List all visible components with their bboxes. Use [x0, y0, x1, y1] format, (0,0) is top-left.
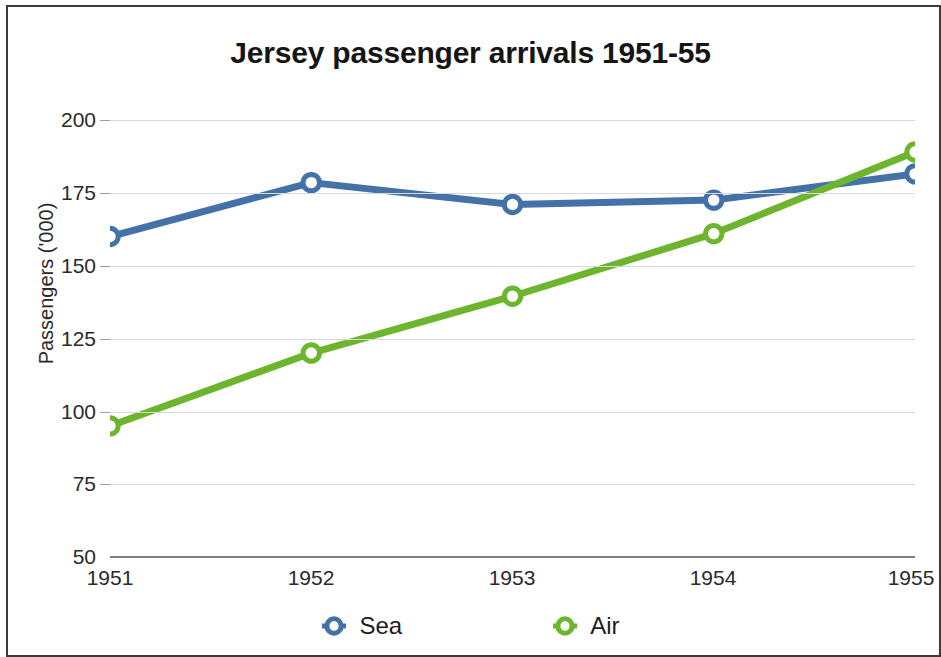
gridline-100 — [110, 412, 915, 413]
y-tick-label-200: 200 — [38, 108, 96, 132]
data-point-air-1952[interactable] — [303, 345, 319, 361]
plot-area — [110, 120, 915, 557]
legend-label-air: Air — [590, 612, 619, 640]
legend-item-air[interactable]: Air — [552, 612, 619, 640]
y-tick-label-175: 175 — [38, 181, 96, 205]
x-axis-line — [110, 556, 915, 558]
legend-marker-circle-icon — [552, 613, 578, 639]
legend-item-sea[interactable]: Sea — [321, 612, 402, 640]
x-tick-label-1951: 1951 — [50, 566, 170, 590]
y-tick-label-75: 75 — [38, 472, 96, 496]
gridline-175 — [110, 193, 915, 194]
data-point-sea-1954[interactable] — [706, 192, 722, 208]
data-point-sea-1955[interactable] — [907, 166, 915, 182]
y-axis-title: Passengers ('000) — [35, 184, 58, 384]
gridline-125 — [110, 339, 915, 340]
x-tick-label-1954: 1954 — [653, 566, 773, 590]
data-point-air-1954[interactable] — [706, 225, 722, 241]
chart-page: Jersey passenger arrivals 1951-55 Passen… — [0, 0, 941, 657]
gridline-75 — [110, 484, 915, 485]
legend-label-sea: Sea — [359, 612, 402, 640]
legend-marker-circle-icon — [321, 613, 347, 639]
gridline-150 — [110, 266, 915, 267]
data-point-sea-1952[interactable] — [303, 174, 319, 190]
chart-title: Jersey passenger arrivals 1951-55 — [0, 36, 941, 70]
x-tick-label-1952: 1952 — [251, 566, 371, 590]
y-tick-label-150: 150 — [38, 254, 96, 278]
gridline-200 — [110, 120, 915, 121]
data-point-air-1953[interactable] — [504, 288, 520, 304]
y-tick-label-125: 125 — [38, 327, 96, 351]
y-tick-label-100: 100 — [38, 400, 96, 424]
chart-legend: Sea Air — [0, 612, 941, 640]
data-point-air-1955[interactable] — [907, 144, 915, 160]
x-tick-label-1953: 1953 — [452, 566, 572, 590]
data-point-air-1951[interactable] — [110, 418, 118, 434]
data-point-sea-1953[interactable] — [504, 196, 520, 212]
data-point-sea-1951[interactable] — [110, 228, 118, 244]
x-tick-label-1955: 1955 — [851, 566, 941, 590]
